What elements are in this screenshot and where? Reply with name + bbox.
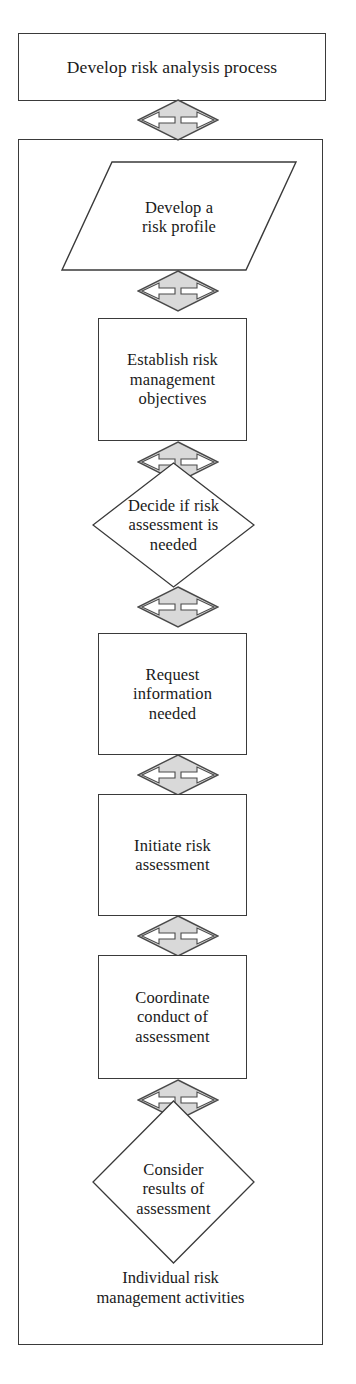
connector-merge-icon-2 [137, 270, 219, 312]
connector-merge-icon-6 [137, 915, 219, 957]
node-label: Decide if risk assessment is needed [128, 496, 219, 554]
node-consider-results-of-assessment[interactable]: Consider results of assessment [92, 1100, 255, 1264]
node-decide-if-risk-assessment-is-needed[interactable]: Decide if risk assessment is needed [92, 462, 255, 588]
node-label: Request information needed [133, 665, 212, 723]
node-develop-risk-analysis-process[interactable]: Develop risk analysis process [18, 33, 326, 101]
connector-merge-icon-1 [137, 99, 219, 141]
connector-merge-icon-4 [137, 586, 219, 628]
node-establish-risk-management-objectives[interactable]: Establish risk management objectives [98, 318, 247, 441]
node-label: Consider results of assessment [136, 1160, 210, 1218]
node-develop-a-risk-profile[interactable]: Develop a risk profile [60, 160, 298, 272]
node-label: Initiate risk assessment [134, 836, 211, 875]
node-label: Develop a risk profile [142, 196, 216, 237]
connector-merge-icon-5 [137, 754, 219, 796]
node-request-information-needed[interactable]: Request information needed [98, 633, 247, 755]
node-coordinate-conduct-of-assessment[interactable]: Coordinate conduct of assessment [98, 955, 247, 1079]
node-label: Develop risk analysis process [67, 57, 277, 78]
flowchart-canvas: Develop risk analysis process Develop a … [0, 0, 356, 1384]
node-label: Establish risk management objectives [127, 350, 218, 408]
container-caption: Individual risk management activities [18, 1268, 323, 1308]
node-initiate-risk-assessment[interactable]: Initiate risk assessment [98, 794, 247, 916]
node-label: Coordinate conduct of assessment [135, 988, 209, 1046]
